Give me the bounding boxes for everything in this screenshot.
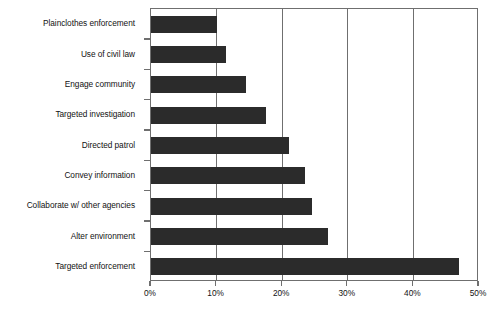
x-axis-tick-label: 20% xyxy=(273,288,290,299)
category-label: Use of civil law xyxy=(0,49,135,59)
x-axis-tick-labels: 0%10%20%30%40%50% xyxy=(150,288,478,302)
x-axis-ticks xyxy=(150,281,478,287)
x-axis-tick-label: 40% xyxy=(404,288,421,299)
x-axis-tick xyxy=(346,281,347,286)
x-axis-tick-label: 50% xyxy=(470,288,487,299)
gridline xyxy=(347,9,348,280)
bar xyxy=(151,258,459,275)
category-label: Targeted investigation xyxy=(0,109,135,119)
bar xyxy=(151,76,246,93)
x-axis-tick xyxy=(149,281,150,286)
category-label: Plainclothes enforcement xyxy=(0,18,135,28)
x-axis-tick xyxy=(477,281,478,286)
x-axis-tick xyxy=(412,281,413,286)
bar xyxy=(151,46,226,63)
plot-inner xyxy=(151,9,477,280)
bar-chart: Plainclothes enforcementUse of civil law… xyxy=(0,0,503,311)
x-axis-tick xyxy=(281,281,282,286)
x-axis-tick xyxy=(215,281,216,286)
bar xyxy=(151,228,328,245)
category-label: Alter environment xyxy=(0,231,135,241)
category-label: Collaborate w/ other agencies xyxy=(0,200,135,210)
category-label: Convey information xyxy=(0,170,135,180)
plot-area xyxy=(150,8,478,281)
category-label: Targeted enforcement xyxy=(0,261,135,271)
category-label: Directed patrol xyxy=(0,140,135,150)
bar xyxy=(151,167,305,184)
x-axis-tick-label: 30% xyxy=(338,288,355,299)
bar xyxy=(151,16,217,33)
x-axis-tick-label: 0% xyxy=(144,288,156,299)
bar xyxy=(151,107,266,124)
x-axis-tick-label: 10% xyxy=(207,288,224,299)
category-label: Engage community xyxy=(0,79,135,89)
gridline xyxy=(413,9,414,280)
category-label-column: Plainclothes enforcementUse of civil law… xyxy=(0,8,143,281)
bar xyxy=(151,198,312,215)
bar xyxy=(151,137,289,154)
